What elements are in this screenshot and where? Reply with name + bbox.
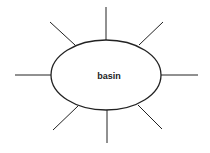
center-label: basin: [97, 71, 121, 81]
spoke-bottom-left: [53, 106, 78, 130]
spoke-bottom-right: [138, 105, 162, 129]
spoke-top-right: [139, 22, 163, 45]
basin-diagram: basin: [0, 0, 210, 153]
spoke-top-left: [50, 22, 75, 45]
